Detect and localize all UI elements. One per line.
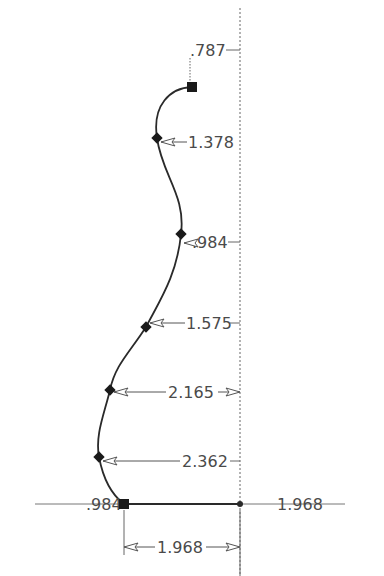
dim-bottom-width: 1.968: [157, 538, 203, 557]
dim-base-right: 1.968: [277, 495, 323, 514]
dim-base-left: .984: [86, 495, 122, 514]
point-marker-p5: [93, 451, 104, 462]
spline-curve: [98, 87, 192, 504]
start-point-marker: [187, 82, 197, 92]
dim-p4: 2.165: [168, 383, 214, 402]
point-marker-p3: [140, 321, 151, 332]
point-marker-p4: [104, 384, 115, 395]
dim-p1: 1.378: [188, 133, 234, 152]
end-point-marker: [119, 499, 129, 509]
dim-p3: 1.575: [186, 314, 232, 333]
dim-top-offset: .787: [190, 41, 226, 60]
point-marker-p2: [175, 228, 186, 239]
origin-point: [237, 501, 243, 507]
drawing-canvas: .787 1.378 .984 1.575 2.165 2.362 .984 1…: [0, 0, 384, 576]
point-marker-p1: [151, 132, 162, 143]
dim-p2: .984: [192, 233, 228, 252]
dim-p5: 2.362: [182, 452, 228, 471]
